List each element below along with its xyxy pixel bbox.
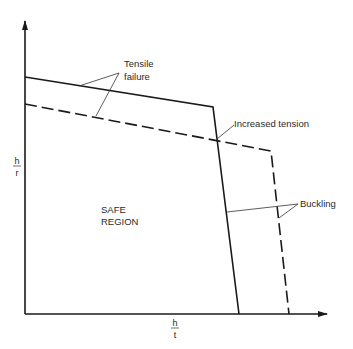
buckling-leader-solid — [227, 204, 298, 212]
buckling-annotation: Buckling — [227, 198, 336, 218]
y-axis-label-denominator: r — [16, 168, 19, 178]
buckling-label: Buckling — [300, 198, 336, 209]
safe-region-label-line1: SAFE — [101, 204, 126, 215]
increased-tension-annotation: Increased tension — [217, 118, 309, 139]
tensile-failure-label-line1: Tensile — [124, 58, 154, 69]
x-axis-label: h t — [171, 318, 179, 340]
x-axis-label-numerator: h — [172, 318, 177, 328]
y-axis-label: h r — [13, 156, 21, 178]
increased-tension-failure-curve — [25, 104, 289, 314]
tensile-failure-label-line2: failure — [124, 71, 150, 82]
x-axis-label-denominator: t — [174, 330, 177, 340]
increased-tension-leader — [217, 125, 234, 139]
failure-envelope-diagram: h r h t Tensile failure Increased tensio… — [0, 0, 353, 349]
y-axis-label-numerator: h — [14, 156, 19, 166]
safe-region-label-line2: REGION — [101, 216, 139, 227]
safe-region-annotation: SAFE REGION — [101, 204, 139, 227]
increased-tension-label: Increased tension — [234, 118, 309, 129]
original-failure-curve — [25, 77, 239, 314]
